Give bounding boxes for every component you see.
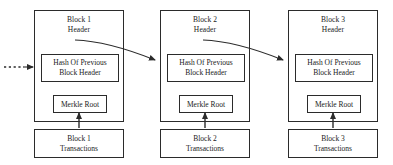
block-header-title-2: Block 2 Header: [161, 15, 249, 34]
block-header-title-line2-3: Header: [289, 25, 377, 35]
transactions-label-line1-3: Block 3: [314, 134, 352, 144]
block-transactions-box-3: Block 3 Transactions: [288, 129, 378, 158]
block-header-container-1: Block 1 Header Hash Of Previous Block He…: [34, 10, 124, 122]
hash-of-previous-block-header-box-1: Hash Of Previous Block Header: [41, 54, 119, 82]
block-header-title-line1-2: Block 2: [161, 15, 249, 25]
hash-label-line1-1: Hash Of Previous: [53, 58, 106, 68]
merkle-root-label-3: Merkle Root: [315, 100, 353, 109]
hash-label-line1-2: Hash Of Previous: [179, 58, 232, 68]
block-header-title-3: Block 3 Header: [289, 15, 377, 34]
hash-label-line1-3: Hash Of Previous: [307, 58, 360, 68]
block-header-container-3: Block 3 Header Hash Of Previous Block He…: [288, 10, 378, 122]
merkle-root-box-1: Merkle Root: [53, 95, 107, 113]
block-header-container-2: Block 2 Header Hash Of Previous Block He…: [160, 10, 250, 122]
hash-of-previous-block-header-box-2: Hash Of Previous Block Header: [167, 54, 245, 82]
merkle-root-label-2: Merkle Root: [187, 100, 225, 109]
transactions-label-line1-2: Block 2: [186, 134, 224, 144]
hash-label-line2-1: Block Header: [53, 68, 106, 78]
merkle-root-box-3: Merkle Root: [307, 95, 361, 113]
hash-label-line2-3: Block Header: [307, 68, 360, 78]
transactions-label-line2-1: Transactions: [60, 144, 98, 154]
block-transactions-box-1: Block 1 Transactions: [34, 129, 124, 158]
transactions-label-line2-2: Transactions: [186, 144, 224, 154]
hash-of-previous-block-header-box-3: Hash Of Previous Block Header: [295, 54, 373, 82]
transactions-label-line1-1: Block 1: [60, 134, 98, 144]
hash-label-line2-2: Block Header: [179, 68, 232, 78]
block-header-title-line2-1: Header: [35, 25, 123, 35]
transactions-label-line2-3: Transactions: [314, 144, 352, 154]
merkle-root-label-1: Merkle Root: [61, 100, 99, 109]
block-header-title-line1-3: Block 3: [289, 15, 377, 25]
block-header-title-line1-1: Block 1: [35, 15, 123, 25]
merkle-root-box-2: Merkle Root: [179, 95, 233, 113]
diagram-canvas: Block 1 Header Hash Of Previous Block He…: [0, 0, 393, 165]
block-transactions-box-2: Block 2 Transactions: [160, 129, 250, 158]
block-header-title-line2-2: Header: [161, 25, 249, 35]
block-header-title-1: Block 1 Header: [35, 15, 123, 34]
